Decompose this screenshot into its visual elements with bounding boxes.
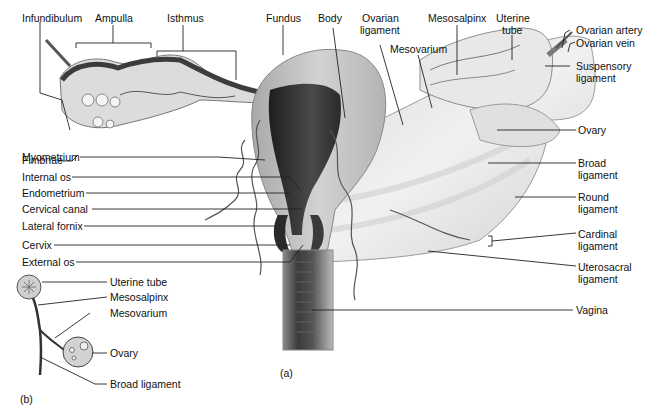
- label-uterosacral-ligament-line2: ligament: [578, 273, 618, 285]
- label-ovarian-ligament-line2: ligament: [360, 24, 400, 36]
- label-cardinal-ligament-line2: ligament: [578, 240, 618, 252]
- label-isthmus: Isthmus: [167, 12, 204, 24]
- label-cardinal-ligament-line1: Cardinal: [578, 228, 617, 240]
- label-suspensory-ligament-line2: ligament: [576, 72, 616, 84]
- female-reproductive-anatomy-figure: Infundibulum Ampulla Isthmus Fundus Body…: [0, 0, 657, 415]
- label-ovary: Ovary: [578, 124, 606, 136]
- label-broad-ligament-line1: Broad: [578, 157, 606, 169]
- label-infundibulum: Infundibulum: [22, 12, 82, 24]
- label-ovarian-vein: Ovarian vein: [576, 37, 635, 49]
- label-mesosalpinx-top: Mesosalpinx: [428, 12, 486, 24]
- vagina-shape: [283, 250, 333, 350]
- label-b-ovary: Ovary: [110, 347, 138, 359]
- panel-b-caption: (b): [20, 393, 33, 405]
- label-external-os: External os: [22, 256, 75, 268]
- panel-a-caption: (a): [280, 367, 293, 379]
- label-ovarian-artery: Ovarian artery: [576, 24, 643, 36]
- label-lateral-fornix: Lateral fornix: [22, 220, 83, 232]
- anatomy-illustration: [0, 0, 657, 415]
- label-b-mesovarium: Mesovarium: [110, 307, 167, 319]
- label-uterine-tube-line1: Uterine: [496, 12, 530, 24]
- label-myometrium: Myometrium: [22, 151, 80, 163]
- label-round-ligament-line1: Round: [578, 191, 609, 203]
- label-endometrium: Endometrium: [22, 187, 84, 199]
- label-internal-os: Internal os: [22, 171, 71, 183]
- label-vagina: Vagina: [576, 304, 608, 316]
- label-suspensory-ligament-line1: Suspensory: [576, 60, 631, 72]
- label-cervical-canal: Cervical canal: [22, 203, 88, 215]
- panel-b-cross-section: [17, 275, 93, 375]
- label-b-uterine-tube: Uterine tube: [110, 276, 167, 288]
- label-ovarian-ligament-line1: Ovarian: [362, 12, 399, 24]
- label-ampulla: Ampulla: [95, 12, 133, 24]
- label-round-ligament-line2: ligament: [578, 203, 618, 215]
- label-fundus: Fundus: [266, 12, 301, 24]
- label-body: Body: [318, 12, 342, 24]
- label-broad-ligament-line2: ligament: [578, 169, 618, 181]
- label-b-mesosalpinx: Mesosalpinx: [110, 291, 168, 303]
- label-uterosacral-ligament-line1: Uterosacral: [578, 261, 632, 273]
- label-mesovarium-top: Mesovarium: [390, 43, 447, 55]
- label-b-broad-ligament: Broad ligament: [110, 378, 181, 390]
- label-uterine-tube-line2: tube: [502, 24, 522, 36]
- label-cervix: Cervix: [22, 239, 52, 251]
